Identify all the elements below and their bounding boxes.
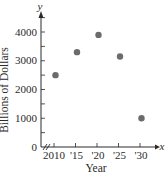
y-tick-label: 0 — [32, 141, 38, 153]
data-point — [95, 32, 101, 38]
y-axis-variable: y — [37, 0, 43, 12]
y-axis: 01000200030004000 — [15, 11, 45, 153]
y-axis-title: Billions of Dollars — [0, 47, 10, 133]
y-axis-arrow-icon — [39, 11, 44, 18]
scatter-chart: 01000200030004000 2010'15'20'25'30 y x Y… — [0, 0, 166, 176]
x-tick-label: '15 — [70, 149, 83, 161]
y-tick-label: 4000 — [15, 26, 38, 38]
x-axis-title: Year — [85, 162, 106, 174]
data-point — [117, 53, 123, 59]
data-point — [138, 115, 144, 121]
x-tick-label: 2010 — [43, 149, 66, 161]
x-axis-variable: x — [159, 140, 165, 152]
y-tick-label: 3000 — [15, 54, 38, 66]
data-point — [74, 49, 80, 55]
x-tick-label: '30 — [135, 149, 148, 161]
y-tick-label: 2000 — [15, 83, 38, 95]
data-point — [52, 72, 58, 78]
x-tick-label: '20 — [92, 149, 105, 161]
x-axis: 2010'15'20'25'30 — [41, 143, 160, 161]
data-points — [52, 32, 144, 122]
y-tick-label: 1000 — [15, 112, 38, 124]
x-tick-label: '25 — [113, 149, 126, 161]
